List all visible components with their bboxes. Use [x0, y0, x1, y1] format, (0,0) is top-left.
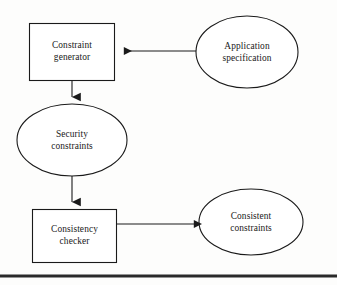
node-security-constraints: [17, 104, 127, 176]
node-consistent-constraints: [199, 189, 303, 255]
node-application-specification: [196, 16, 298, 88]
node-consistency-checker: [33, 210, 117, 263]
diagram-canvas: [0, 0, 337, 285]
node-constraint-generator: [30, 24, 115, 81]
flowchart-diagram: Constraint generator Application specifi…: [0, 0, 337, 285]
